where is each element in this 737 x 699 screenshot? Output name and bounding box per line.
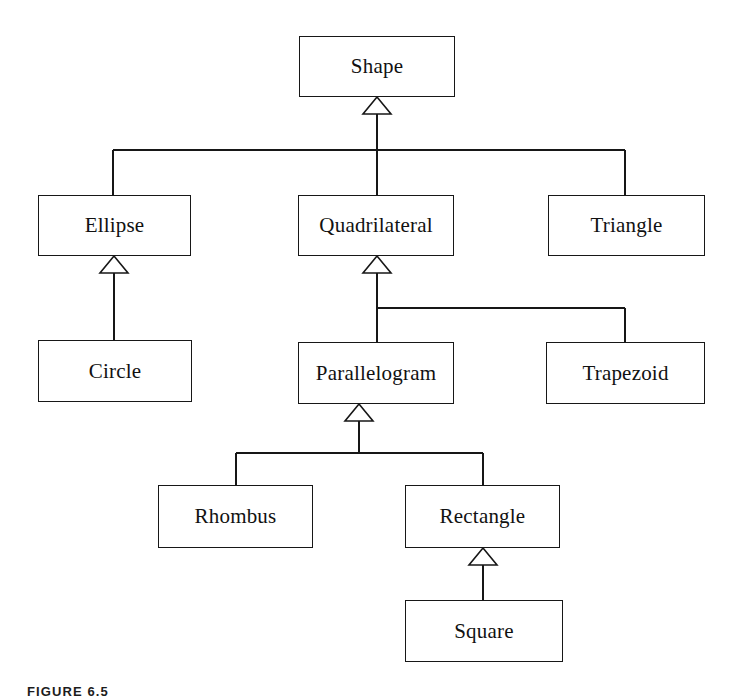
arrowhead-shape [363,97,391,114]
class-box-rhombus[interactable]: Rhombus [158,485,313,548]
class-label-parallelogram: Parallelogram [316,363,436,384]
class-label-circle: Circle [89,361,142,382]
edge-quadrilateral-bus [377,273,625,342]
class-box-ellipse[interactable]: Ellipse [38,195,191,256]
class-label-rectangle: Rectangle [440,506,526,527]
edge-parallelogram-bus [236,421,483,485]
class-label-shape: Shape [351,56,403,77]
class-box-triangle[interactable]: Triangle [548,195,705,256]
class-label-square: Square [454,621,514,642]
class-box-shape[interactable]: Shape [299,36,455,97]
class-box-square[interactable]: Square [405,600,563,662]
class-label-trapezoid: Trapezoid [582,363,668,384]
class-label-quadrilateral: Quadrilateral [319,215,432,236]
arrowhead-quadrilateral [363,256,391,273]
class-box-quadrilateral[interactable]: Quadrilateral [298,195,454,256]
class-label-rhombus: Rhombus [195,506,277,527]
class-box-rectangle[interactable]: Rectangle [405,485,560,548]
class-label-triangle: Triangle [591,215,663,236]
arrowhead-rectangle [469,548,497,565]
class-box-parallelogram[interactable]: Parallelogram [298,342,454,404]
class-box-trapezoid[interactable]: Trapezoid [546,342,705,404]
class-box-circle[interactable]: Circle [38,340,192,402]
class-diagram-canvas: Shape Ellipse Quadrilateral Triangle Cir… [0,0,737,699]
arrowhead-parallelogram [345,404,373,421]
class-label-ellipse: Ellipse [85,215,145,236]
figure-caption: FIGURE 6.5 [27,684,109,699]
edge-shape-bus [113,114,625,195]
arrowhead-ellipse [100,256,128,273]
